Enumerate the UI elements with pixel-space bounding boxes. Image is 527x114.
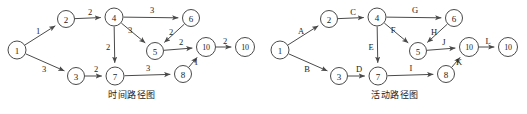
edge-label-e10: 3: [146, 63, 150, 73]
edge-label-e12: L: [485, 36, 490, 46]
node-label: 7: [376, 72, 381, 82]
node-label: 2: [64, 15, 69, 25]
node-label: 4: [112, 13, 117, 23]
edge-label-e4: G: [412, 5, 418, 15]
edge-label-e6: 2: [106, 42, 110, 52]
node-n1[interactable]: 1: [271, 41, 289, 59]
activity-path-diagram-panel: 123456781010 ABCGFEHDJIKL 活动路径图: [263, 0, 527, 114]
edge-label-e1: A: [298, 26, 305, 36]
time-path-diagram-svg: 123456781010 132332222312: [0, 0, 264, 92]
activity-path-diagram-svg: 123456781010 ABCGFEHDJIKL: [263, 0, 527, 92]
node-n1[interactable]: 1: [8, 41, 26, 59]
node-label: 5: [416, 47, 421, 57]
time-path-diagram-caption: 时间路径图: [0, 88, 264, 101]
node-label: 7: [113, 72, 118, 82]
activity-path-diagram-caption: 活动路径图: [263, 88, 527, 101]
edge-label-e5: 3: [128, 25, 132, 35]
node-label: 3: [337, 72, 342, 82]
edge-n2-to-n4: [338, 18, 364, 19]
node-n2[interactable]: 2: [321, 11, 338, 28]
edge-label-e8: D: [356, 64, 362, 74]
node-label: 6: [189, 14, 194, 24]
node-label: 1: [278, 46, 283, 56]
node-n5[interactable]: 5: [147, 43, 164, 60]
edge-label-e10: I: [410, 63, 413, 73]
time-path-diagram-panel: 123456781010 132332222312 时间路径图: [0, 0, 264, 114]
node-label: 8: [181, 70, 186, 80]
node-label: 10: [504, 43, 512, 52]
edge-label-e6: E: [368, 42, 373, 52]
edge-label-e2: 3: [42, 64, 46, 74]
edge-label-e8: 2: [94, 64, 98, 74]
figure-canvas: 123456781010 132332222312 时间路径图 12345678…: [0, 0, 527, 114]
edge-n4-to-n7: [114, 26, 115, 62]
edge-n4-to-n6: [123, 17, 178, 18]
node-label: 4: [375, 13, 380, 23]
node-label: 6: [452, 14, 457, 24]
edge-n5-to-n10a: [164, 48, 192, 50]
edge-label-e2: B: [304, 64, 310, 74]
node-label: 10: [465, 43, 473, 52]
node-n4[interactable]: 4: [105, 8, 123, 26]
node-label: 10: [241, 43, 249, 52]
edge-n4-to-n5: [384, 23, 408, 43]
edge-n5-to-n10a: [427, 48, 455, 50]
edge-n7-to-n8: [387, 74, 433, 75]
node-n6[interactable]: 6: [183, 10, 200, 27]
edge-label-e11: 1: [194, 57, 198, 67]
edge-label-e3: C: [350, 7, 356, 17]
node-n3[interactable]: 3: [331, 68, 348, 85]
edge-label-e7: 2: [169, 27, 173, 37]
edge-label-e4: 3: [150, 5, 154, 15]
edge-label-e1: 1: [36, 26, 40, 36]
node-label: 10: [202, 43, 210, 52]
node-n3[interactable]: 3: [68, 68, 85, 85]
edge-label-e12: 2: [223, 36, 227, 46]
node-label: 1: [15, 46, 20, 56]
edge-n2-to-n4: [75, 18, 101, 19]
edge-label-e7: H: [431, 27, 437, 37]
node-label: 5: [153, 47, 158, 57]
node-n7[interactable]: 7: [106, 67, 124, 85]
node-label: 8: [444, 70, 449, 80]
node-n2[interactable]: 2: [58, 11, 75, 28]
node-n10a[interactable]: 10: [197, 38, 216, 57]
edge-n4-to-n5: [121, 23, 145, 43]
edge-label-e9: 2: [179, 37, 183, 47]
node-n10b[interactable]: 10: [236, 38, 255, 57]
node-n8[interactable]: 8: [175, 66, 192, 83]
node-n8[interactable]: 8: [438, 66, 455, 83]
node-label: 2: [327, 15, 332, 25]
edge-label-e9: J: [442, 37, 446, 47]
node-label: 3: [74, 72, 79, 82]
node-n6[interactable]: 6: [446, 10, 463, 27]
edge-label-e11: K: [456, 57, 463, 67]
edge-n4-to-n6: [386, 17, 441, 18]
edge-label-e5: F: [391, 25, 396, 35]
node-n7[interactable]: 7: [369, 67, 387, 85]
node-n5[interactable]: 5: [410, 43, 427, 60]
edge-n7-to-n8: [124, 74, 170, 75]
edge-n1-to-n2: [25, 26, 55, 45]
edge-n4-to-n7: [377, 26, 378, 62]
node-n10b[interactable]: 10: [499, 38, 518, 57]
edge-label-e3: 2: [88, 7, 92, 17]
node-n4[interactable]: 4: [368, 8, 386, 26]
node-n10a[interactable]: 10: [460, 38, 479, 57]
